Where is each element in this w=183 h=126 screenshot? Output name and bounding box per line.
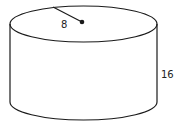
radius-line [53,7,82,22]
center-point [80,20,85,25]
cylinder-diagram: 8 16 [0,0,183,126]
cylinder-bottom-arc [10,102,157,120]
cylinder-top-ellipse [10,6,157,42]
height-label: 16 [161,69,174,80]
radius-label: 8 [61,19,67,30]
